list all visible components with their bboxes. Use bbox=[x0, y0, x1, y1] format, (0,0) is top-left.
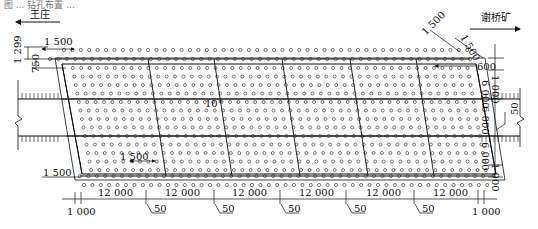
dim-right-6000-a: 6 000 bbox=[480, 80, 490, 109]
dim-right-50: 50 bbox=[510, 102, 520, 115]
dim-right-1000-top: 1 000 bbox=[490, 75, 500, 104]
dim-top-offset-750: 750 bbox=[31, 54, 41, 73]
direction-label-left: 王庄 bbox=[30, 10, 50, 20]
dim-right-1000-bottom: 1 000 bbox=[490, 163, 500, 192]
dim-top-spacing-left: 1 500 bbox=[44, 37, 73, 47]
dim-span-4: 12 000 bbox=[299, 188, 334, 198]
dim-600: 600 bbox=[477, 62, 496, 72]
dim-tick-50-1: 50 bbox=[154, 204, 167, 214]
angle-label: 10° bbox=[205, 99, 223, 109]
dim-tick-50-2: 50 bbox=[222, 204, 235, 214]
dim-tick-50-3: 50 bbox=[288, 204, 301, 214]
dim-tick-50-4: 50 bbox=[354, 204, 367, 214]
dim-top-offset-1299: 1 299 bbox=[13, 35, 23, 64]
dim-right-6000-c: 6 000 bbox=[480, 142, 490, 171]
direction-label-right: 谢桥矿 bbox=[481, 13, 511, 23]
dim-span-3: 12 000 bbox=[232, 188, 267, 198]
dim-right-6000-b: 6 000 bbox=[480, 106, 490, 135]
borehole-layout-diagram: 图 ... 钻孔布置 ... 王庄 谢桥矿 10° 1 500 1 299 75… bbox=[0, 0, 538, 229]
dim-span-1: 12 000 bbox=[98, 188, 133, 198]
dim-span-5: 12 000 bbox=[366, 188, 401, 198]
dim-span-2: 12 000 bbox=[165, 188, 200, 198]
dimension-lines bbox=[24, 30, 505, 213]
roadway bbox=[15, 80, 524, 150]
dim-bottom-left-1500: 1 500 bbox=[43, 168, 72, 178]
dim-span-6: 12 000 bbox=[433, 188, 468, 198]
borehole-array bbox=[48, 48, 488, 186]
dim-bottom-left-1000: 1 000 bbox=[67, 207, 96, 217]
dim-tick-50-5: 50 bbox=[422, 204, 435, 214]
dim-inner-1500: 1 500 bbox=[120, 152, 149, 162]
dim-bottom-right-1000: 1 000 bbox=[472, 207, 501, 217]
